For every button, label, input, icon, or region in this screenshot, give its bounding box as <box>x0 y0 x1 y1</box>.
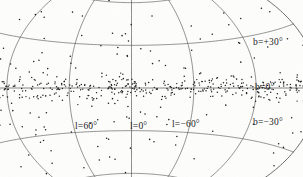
label-b-zero: b=0° <box>255 82 274 92</box>
label-l-plus-60: l=60° <box>75 121 97 131</box>
sky-map-figure: b=+30° b=0° b=−30° l=60° l=0° l=−60° <box>0 0 303 177</box>
label-l-minus-60: l=−60° <box>172 119 200 129</box>
label-b-plus-30: b=+30° <box>253 37 283 47</box>
label-l-zero: l=0° <box>130 121 147 131</box>
label-b-minus-30: b=−30° <box>253 117 283 127</box>
